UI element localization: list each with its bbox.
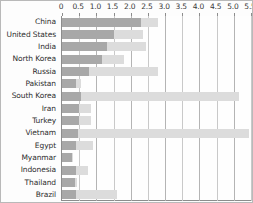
bar-dark-series (62, 178, 75, 187)
bar-dark-series (62, 67, 89, 76)
category-label: Vietnam (25, 128, 56, 137)
x-tick-label: 3.5 (176, 2, 187, 11)
category-label: Pakistan (25, 79, 56, 88)
bar-row (62, 140, 251, 151)
bar-row (62, 152, 251, 163)
tick-mark-2.5 (148, 13, 149, 16)
bar-light-series (62, 92, 239, 101)
category-label: South Korea (12, 91, 56, 100)
bar-dark-series (62, 116, 79, 125)
bar-dark-series (62, 141, 76, 150)
tick-mark-1.5 (114, 13, 115, 16)
x-tick-label: 2.0 (124, 2, 135, 11)
category-label: India (38, 42, 56, 51)
category-label: Iran (42, 104, 56, 113)
bar-row (62, 41, 251, 52)
bar-row (62, 66, 251, 77)
bar-dark-series (62, 79, 76, 88)
tick-mark-0 (62, 13, 63, 16)
category-label: Brazil (36, 190, 56, 199)
bar-row (62, 189, 251, 200)
bar-row (62, 29, 251, 40)
bar-light-series (62, 129, 249, 138)
bar-row (62, 128, 251, 139)
category-label: Indonesia (21, 165, 56, 174)
bar-row (62, 115, 251, 126)
bar-dark-series (62, 30, 114, 39)
category-label: Turkey (32, 116, 56, 125)
tick-mark-1.0 (96, 13, 97, 16)
x-tick-label: 0.5 (73, 2, 84, 11)
category-label: China (35, 17, 56, 26)
x-axis-tick-labels: 00.51.01.52.02.53.03.54.04.55.05.5 (0, 0, 253, 15)
category-label: North Korea (12, 54, 56, 63)
x-tick-label: 1.0 (90, 2, 101, 11)
bar-row (62, 165, 251, 176)
x-tick-label: 1.5 (107, 2, 118, 11)
gridline-5.5 (251, 16, 252, 201)
bar-dark-series (62, 55, 102, 64)
bar-row (62, 17, 251, 28)
bar-dark-series (62, 153, 72, 162)
y-axis-category-labels: ChinaUnited StatesIndiaNorth KoreaRussia… (0, 16, 60, 202)
bar-dark-series (62, 92, 81, 101)
bar-row (62, 91, 251, 102)
bar-row (62, 103, 251, 114)
tick-mark-5.5 (251, 13, 252, 16)
tick-mark-3.0 (165, 13, 166, 16)
bar-dark-series (62, 42, 107, 51)
tick-mark-2.0 (131, 13, 132, 16)
tick-mark-4.5 (217, 13, 218, 16)
tick-mark-4.0 (199, 13, 200, 16)
bar-dark-series (62, 166, 76, 175)
tick-mark-3.5 (182, 13, 183, 16)
category-label: Myanmar (21, 153, 56, 162)
x-tick-label: 4.0 (193, 2, 204, 11)
x-tick-label: 3.0 (158, 2, 169, 11)
bar-row (62, 78, 251, 89)
x-tick-label: 4.5 (210, 2, 221, 11)
bar-dark-series (62, 129, 78, 138)
x-tick-label: 0 (59, 2, 64, 11)
x-tick-label: 5.0 (227, 2, 238, 11)
tick-mark-5.0 (234, 13, 235, 16)
bar-row (62, 177, 251, 188)
plot-area (61, 16, 251, 201)
bar-row (62, 54, 251, 65)
category-label: Thailand (25, 178, 56, 187)
x-tick-label: 2.5 (141, 2, 152, 11)
category-label: Egypt (35, 141, 56, 150)
tick-mark-0.5 (79, 13, 80, 16)
category-label: Russia (32, 67, 56, 76)
bar-dark-series (62, 18, 141, 27)
category-label: United States (7, 30, 57, 39)
bar-dark-series (62, 104, 79, 113)
bar-dark-series (62, 190, 76, 199)
horizontal-bar-chart: 00.51.01.52.02.53.03.54.04.55.05.5 China… (0, 0, 253, 203)
x-tick-label: 5.5 (244, 2, 253, 11)
